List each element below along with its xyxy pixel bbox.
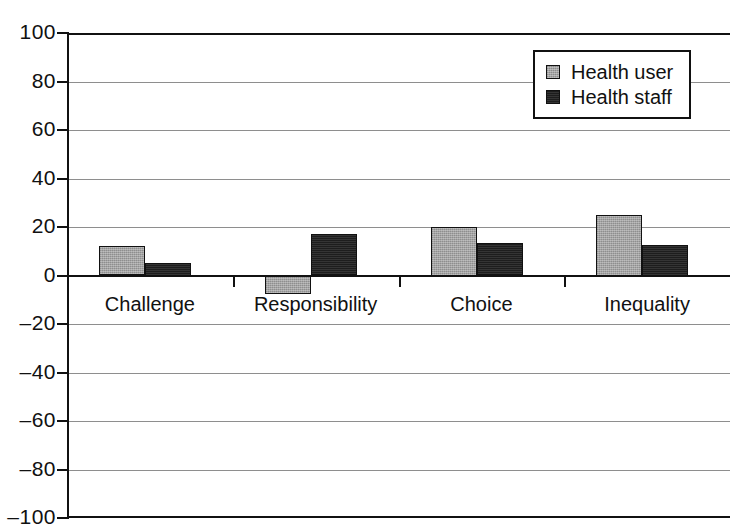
y-tick-100 <box>57 32 69 34</box>
y-tick--60 <box>57 420 69 422</box>
y-tick--80 <box>57 469 69 471</box>
bar-inequality-health-staff <box>642 245 688 275</box>
bar-choice-health-user <box>431 227 477 276</box>
bar-chart: 100806040200–20–40–60–80–100 ChallengeRe… <box>0 0 744 530</box>
y-tick--100 <box>57 517 69 519</box>
y-tick-0 <box>57 275 69 277</box>
y-tick-80 <box>57 81 69 83</box>
y-axis-label--40: –40 <box>19 360 56 384</box>
y-axis-label--60: –60 <box>19 408 56 432</box>
legend-item-health-staff: Health staff <box>546 84 673 109</box>
x-axis-label-choice: Choice <box>450 293 512 316</box>
x-axis-label-responsibility: Responsibility <box>254 293 377 316</box>
y-tick-60 <box>57 129 69 131</box>
legend-label-health-user: Health user <box>571 62 673 82</box>
y-axis-label-80: 80 <box>32 69 56 93</box>
y-axis-label-60: 60 <box>32 117 56 141</box>
y-tick-40 <box>57 178 69 180</box>
x-axis-label-inequality: Inequality <box>604 293 690 316</box>
bar-challenge-health-staff <box>145 263 191 275</box>
legend-swatch-health-staff <box>546 90 560 104</box>
gridline-40 <box>67 179 730 180</box>
y-tick-20 <box>57 226 69 228</box>
y-tick--40 <box>57 372 69 374</box>
gridline--60 <box>67 421 730 422</box>
gridline--20 <box>67 324 730 325</box>
gridline--80 <box>67 470 730 471</box>
y-axis-label-0: 0 <box>44 263 56 287</box>
bar-challenge-health-user <box>99 246 145 275</box>
y-axis-label--100: –100 <box>7 505 56 529</box>
legend-swatch-health-user <box>546 65 560 79</box>
bar-responsibility-health-user <box>265 276 311 294</box>
x-tick-3 <box>564 276 566 287</box>
y-axis-label-20: 20 <box>32 214 56 238</box>
gridline--40 <box>67 373 730 374</box>
gridline-60 <box>67 130 730 131</box>
y-tick--20 <box>57 323 69 325</box>
legend: Health user Health staff <box>533 50 691 119</box>
legend-item-health-user: Health user <box>546 59 673 84</box>
x-tick-2 <box>399 276 401 287</box>
y-axis-label-40: 40 <box>32 166 56 190</box>
bar-choice-health-staff <box>477 243 523 276</box>
y-axis-label--80: –80 <box>19 457 56 481</box>
bar-responsibility-health-staff <box>311 234 357 275</box>
bar-inequality-health-user <box>596 215 642 276</box>
x-tick-1 <box>233 276 235 287</box>
legend-label-health-staff: Health staff <box>571 87 672 107</box>
y-axis-label-100: 100 <box>19 20 56 44</box>
x-axis-label-challenge: Challenge <box>105 293 195 316</box>
y-axis-label--20: –20 <box>19 311 56 335</box>
